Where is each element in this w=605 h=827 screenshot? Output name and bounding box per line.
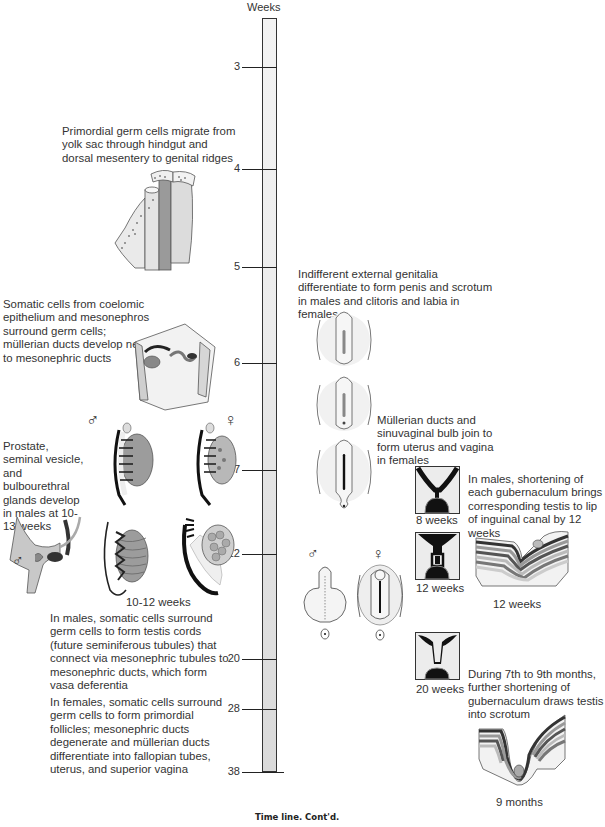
ovary-illustration [180, 515, 240, 600]
gonadal-ridge-illustration [130, 322, 220, 412]
timeline-tick-mark [242, 169, 277, 170]
uterus-8-weeks-label: 8 weeks [416, 514, 458, 526]
testis-descent-12-weeks-illustration [474, 528, 570, 588]
annotation-females-follicles: In females, somatic cells surround germ … [50, 696, 230, 776]
male-external-genitalia-illustration [302, 562, 348, 642]
timeline-tick-mark [242, 470, 277, 471]
male-symbol-sinus: ♂ [12, 552, 24, 570]
testis-descent-9-months-illustration [477, 715, 567, 787]
male-symbol-external: ♂ [307, 545, 319, 563]
timeline-tick-mark [242, 67, 277, 68]
uterus-20-weeks-label: 20 weeks [416, 683, 464, 695]
annotation-males-testis: In males, somatic cells surround germ ce… [50, 612, 230, 692]
timeline-tick-mark [242, 267, 277, 268]
gonad-age-label: 10-12 weeks [126, 596, 191, 608]
timeline-tick-mark [242, 659, 277, 660]
timeline-tick-mark [242, 709, 277, 710]
uterus-20-weeks-illustration [415, 632, 460, 680]
annotation-mullerian-ducts: Müllerian ducts and sinuvaginal bulb joi… [377, 414, 495, 468]
descent-12-weeks-label: 12 weeks [493, 598, 541, 610]
timeline-tick-label: 3 [210, 60, 240, 72]
indifferent-genitalia-stage-3 [314, 438, 374, 514]
male-symbol-ducts: ♂ [86, 410, 100, 431]
testis-illustration [100, 520, 150, 600]
figure-caption: Time line. Cont'd. [255, 812, 339, 822]
uterus-12-weeks-label: 12 weeks [416, 582, 464, 594]
annotation-gubernaculum-late: During 7th to 9th months, further shorte… [468, 668, 605, 722]
timeline-tick-mark [242, 772, 284, 773]
indifferent-genitalia-stage-1 [314, 310, 374, 370]
annotation-primordial-germ-cells: Primordial germ cells migrate from yolk … [62, 125, 240, 165]
uterus-12-weeks-illustration [415, 532, 460, 580]
descent-9-months-label: 9 months [496, 796, 543, 808]
timeline-tick-mark [242, 363, 277, 364]
uterus-8-weeks-illustration [415, 466, 460, 514]
female-symbol-external: ♀ [372, 545, 384, 563]
male-duct-illustration [105, 420, 155, 508]
indifferent-genitalia-stage-2 [314, 375, 374, 435]
germ-cell-migration-illustration [115, 168, 215, 273]
timeline-tick-mark [242, 554, 277, 555]
female-duct-illustration [190, 420, 240, 508]
timeline-axis-label: Weeks [247, 1, 280, 13]
female-external-genitalia-illustration [355, 565, 405, 645]
